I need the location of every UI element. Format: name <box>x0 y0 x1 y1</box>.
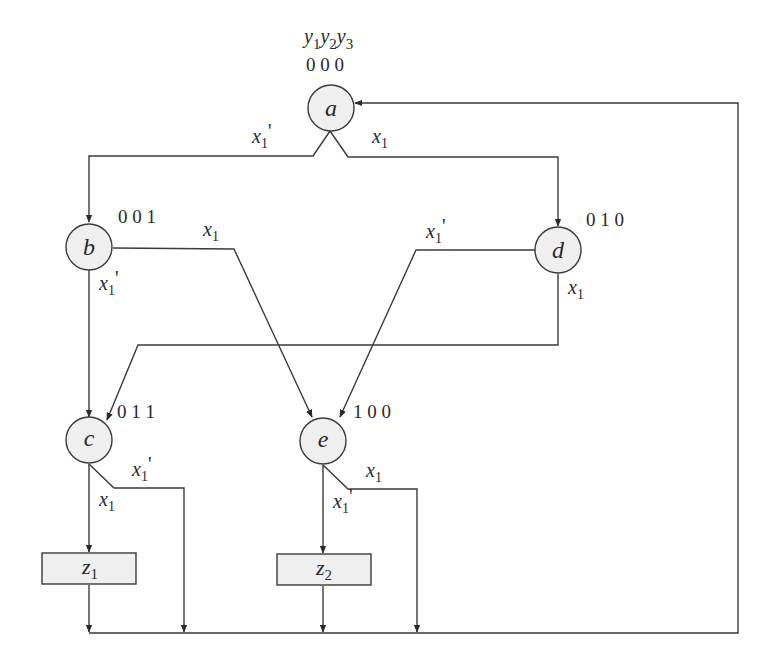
output-z1[interactable]: z1 <box>42 553 136 584</box>
state-variables-header: y1y2y3 <box>302 25 353 52</box>
state-b-label: b <box>83 234 95 260</box>
state-e[interactable]: e 1 0 0 <box>300 401 391 464</box>
state-a-label: a <box>325 95 337 121</box>
state-e-label: e <box>318 426 329 452</box>
cond-e-z2: x1' <box>332 485 353 516</box>
state-a-code: 0 0 0 <box>306 54 344 75</box>
cond-d-c: x1 <box>567 276 584 302</box>
wire-d-to-c <box>107 274 558 420</box>
cond-d-e: x1' <box>425 215 446 246</box>
state-a[interactable]: a 0 0 0 <box>306 54 354 131</box>
wires <box>89 103 738 633</box>
state-b[interactable]: b 0 0 1 <box>66 206 156 270</box>
state-b-code: 0 0 1 <box>118 206 156 227</box>
output-z2[interactable]: z2 <box>277 554 371 585</box>
asm-chart-diagram: y1y2y3 a 0 0 0 b <box>0 0 776 663</box>
state-e-code: 1 0 0 <box>353 401 391 422</box>
state-c-code: 0 1 1 <box>117 401 155 422</box>
cond-e-a: x1 <box>365 459 382 485</box>
state-c-label: c <box>84 425 95 451</box>
cond-a-d: x1 <box>371 125 388 151</box>
state-d[interactable]: d 0 1 0 <box>535 209 624 273</box>
cond-b-e: x1 <box>202 218 219 244</box>
state-d-code: 0 1 0 <box>586 209 624 230</box>
wire-b-to-e <box>113 248 312 417</box>
wire-a-to-d <box>330 131 558 226</box>
wire-return-to-a <box>89 103 738 633</box>
cond-a-b: x1' <box>251 120 272 151</box>
wire-d-to-e <box>340 250 535 417</box>
transition-labels: x1' x1 x1 x1' x1' x1 x1 x1' x1' x1 <box>98 120 584 516</box>
cond-b-c: x1' <box>98 267 119 298</box>
y1-label: y1y2y3 <box>302 25 353 52</box>
cond-c-a: x1' <box>131 453 152 484</box>
state-d-label: d <box>552 237 565 263</box>
cond-c-z1: x1 <box>98 488 115 514</box>
